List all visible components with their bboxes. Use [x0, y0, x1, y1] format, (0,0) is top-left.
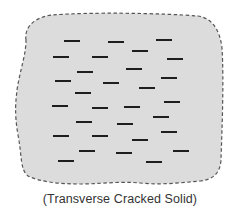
transverse-crack	[126, 68, 142, 70]
transverse-crack	[146, 161, 162, 163]
transverse-crack	[76, 121, 92, 123]
transverse-crack	[92, 56, 108, 58]
transverse-crack	[55, 80, 71, 82]
transverse-crack	[132, 50, 148, 52]
transverse-crack	[153, 116, 169, 118]
transverse-crack	[52, 105, 68, 107]
transverse-crack	[58, 160, 74, 162]
transverse-crack	[77, 71, 93, 73]
transverse-crack	[161, 131, 177, 133]
transverse-crack	[156, 39, 172, 41]
figure-caption: (Transverse Cracked Solid)	[0, 192, 240, 206]
transverse-crack	[75, 92, 91, 94]
solid-body-outline	[16, 13, 223, 184]
transverse-crack	[53, 135, 69, 137]
transverse-crack	[64, 40, 80, 42]
transverse-crack	[53, 56, 69, 58]
transverse-crack	[161, 77, 177, 79]
transverse-crack	[132, 139, 148, 141]
transverse-crack	[139, 87, 155, 89]
transverse-crack	[79, 150, 95, 152]
transverse-crack	[124, 106, 140, 108]
transverse-crack	[167, 58, 183, 60]
transverse-crack	[164, 101, 180, 103]
transverse-crack	[92, 107, 108, 109]
transverse-crack	[92, 135, 108, 137]
transverse-crack	[108, 41, 124, 43]
transverse-crack	[116, 152, 132, 154]
transverse-crack	[103, 82, 119, 84]
transverse-crack	[173, 150, 189, 152]
transverse-cracked-solid-diagram	[0, 0, 240, 212]
transverse-crack	[117, 123, 133, 125]
